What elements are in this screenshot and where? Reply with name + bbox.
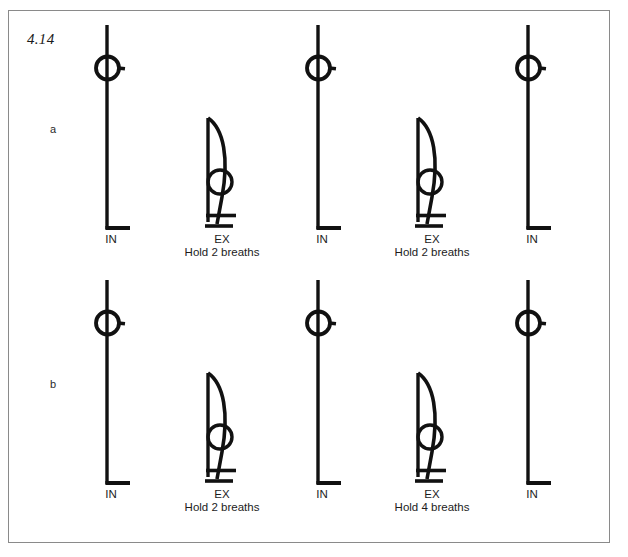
pose-cell: IN [267,274,377,524]
pose-caption-main: EX [377,233,487,246]
figure-number: 4.14 [27,31,54,48]
pose-caption: EX Hold 4 breaths [377,488,487,514]
pose-caption: IN [267,488,377,501]
pose-cell: IN [267,19,377,269]
pose-caption: EX Hold 2 breaths [167,233,277,259]
stick-figure-standing [56,19,166,234]
pose-caption-sub: Hold 2 breaths [377,246,487,259]
pose-caption: EX Hold 2 breaths [377,233,487,259]
pose-caption: EX Hold 2 breaths [167,488,277,514]
pose-caption-main: IN [56,233,166,246]
pose-caption-main: EX [167,233,277,246]
pose-caption-main: IN [477,233,587,246]
pose-cell: EX Hold 2 breaths [167,274,277,524]
pose-caption: IN [56,488,166,501]
pose-cell: IN [56,274,166,524]
stick-figure-bending [377,274,487,489]
stick-figure-standing [56,274,166,489]
pose-caption-main: EX [167,488,277,501]
pose-caption-sub: Hold 2 breaths [167,501,277,514]
pose-cell: IN [477,274,587,524]
pose-caption: IN [56,233,166,246]
stick-figure-bending [377,19,487,234]
pose-caption-main: IN [267,233,377,246]
pose-caption-main: IN [56,488,166,501]
stick-figure-standing [477,19,587,234]
pose-cell: IN [477,19,587,269]
stick-figure-bending [167,274,277,489]
pose-caption-main: EX [377,488,487,501]
stick-figure-standing [477,274,587,489]
figure-page: 4.14 a b IN [0,0,628,557]
pose-cell: EX Hold 2 breaths [377,19,487,269]
stick-figure-standing [267,19,377,234]
pose-caption: IN [267,233,377,246]
pose-caption-sub: Hold 4 breaths [377,501,487,514]
pose-caption-sub: Hold 2 breaths [167,246,277,259]
stick-figure-standing [267,274,377,489]
stick-figure-bending [167,19,277,234]
pose-caption: IN [477,488,587,501]
pose-cell: IN [56,19,166,269]
pose-caption-main: IN [477,488,587,501]
pose-cell: EX Hold 2 breaths [167,19,277,269]
pose-caption-main: IN [267,488,377,501]
pose-cell: EX Hold 4 breaths [377,274,487,524]
pose-caption: IN [477,233,587,246]
figure-frame: 4.14 a b IN [8,10,610,543]
